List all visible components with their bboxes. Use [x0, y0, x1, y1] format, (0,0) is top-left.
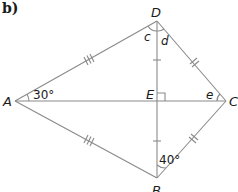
double-tick-CB	[189, 134, 198, 143]
double-tick-DC	[190, 58, 199, 67]
right-angle-marker	[157, 93, 165, 101]
side-DC	[157, 21, 226, 101]
triple-tick-AD	[84, 54, 94, 65]
vertex-label-B: B	[152, 183, 161, 192]
angle-arc-d	[157, 29, 164, 31]
angle-arc-e	[217, 94, 220, 101]
triple-tick-AB	[84, 135, 94, 146]
vertex-label-D: D	[151, 5, 161, 20]
angle-arc-A	[27, 94, 29, 101]
kite-diagram: D A C E B 30° 40° c d e	[0, 0, 238, 192]
angle-label-d: d	[161, 34, 169, 48]
vertex-label-E: E	[146, 87, 155, 102]
angle-label-A: 30°	[33, 88, 54, 102]
vertex-label-C: C	[229, 94, 238, 109]
vertex-label-A: A	[2, 94, 12, 109]
angle-label-B: 40°	[159, 153, 180, 167]
angle-label-c: c	[144, 30, 151, 44]
angle-label-e: e	[206, 88, 213, 102]
